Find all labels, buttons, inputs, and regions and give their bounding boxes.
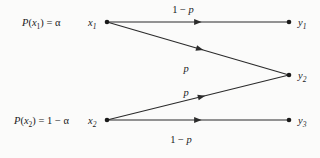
node-x2-label: x2 [87,115,97,129]
node-x1-label: x1 [87,17,96,31]
edge-x2-y3-arrowhead [194,117,202,123]
edge-x2-y2-label: p [182,87,188,98]
node-y3-label: y3 [297,115,307,129]
node-y2-label: y2 [297,70,307,84]
prior-x2-label: P(x2) = 1 − α [13,115,69,129]
edge-x1-y1-label: 1 − p [172,4,194,15]
edge-x2-y2: p [107,75,289,120]
node-y1-dot [287,20,292,25]
input-node-group: x1 x2 [87,17,109,129]
prior-x1-label: P(x1) = α [21,17,61,31]
node-x2-dot [105,118,110,123]
edge-x2-y3-label: 1 − p [170,134,192,145]
edge-x1-y2-arrowhead [195,45,203,51]
node-x1-dot [105,20,110,25]
edge-x1-y1-arrowhead [194,19,202,25]
channel-diagram-canvas: 1 − p p p 1 − p x1 x2 [0,0,320,158]
edge-x2-y3: 1 − p [107,117,289,145]
output-node-group: y1 y2 y3 [287,17,307,129]
node-y1-label: y1 [297,17,306,31]
edge-x1-y2: p [107,22,289,75]
edge-x1-y2-label: p [182,63,188,74]
edge-x1-y1: 1 − p [107,4,289,25]
channel-diagram-figure: 1 − p p p 1 − p x1 x2 [0,0,320,158]
prior-label-group: P(x1) = α P(x2) = 1 − α [13,17,69,129]
node-y2-dot [287,73,292,78]
node-y3-dot [287,118,292,123]
edge-group: 1 − p p p 1 − p [107,4,289,145]
